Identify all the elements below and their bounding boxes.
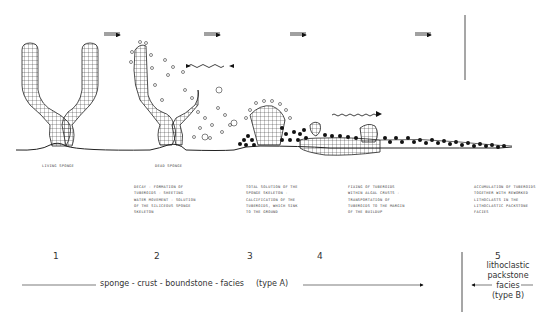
progression-arrows [104, 33, 431, 35]
stage-4-number: 4 [317, 251, 323, 261]
stage-4-description: FIXING OF TUBEROIDS WITHIN ALGAL CRUSTS … [348, 184, 405, 215]
stage-1-number: 1 [53, 251, 59, 261]
stage-2-label: DEAD SPONGE [155, 163, 182, 169]
dead-sponge-shape [130, 41, 238, 146]
type-b-line-4: (type B) [470, 291, 546, 301]
facies-type-b-label: lithoclastic packstone facies (type B) [470, 261, 546, 301]
transport-arrow [332, 114, 376, 116]
stage-3-description: TOTAL SOLUTION OF THE SPONGE SKELETON - … [246, 184, 298, 215]
living-sponge-shape [22, 43, 98, 146]
type-b-line-2: packstone [470, 271, 546, 281]
stage-1-label: LIVING SPONGE [42, 163, 74, 169]
facies-type-a-tag: (type A) [256, 279, 288, 288]
stage-3-number: 3 [247, 251, 253, 261]
stage-5-number: 5 [495, 251, 501, 261]
stage-2-number: 2 [154, 251, 160, 261]
algal-crust-buildup [298, 122, 512, 155]
type-b-line-3: facies [470, 281, 546, 291]
calcified-sponge-shape [238, 100, 300, 148]
type-b-line-1: lithoclastic [470, 261, 546, 271]
stage-5-description: ACCUMULATION OF TUBEROIDS TOGETHER WITH … [474, 184, 536, 215]
water-movement-arrow [188, 65, 224, 68]
facies-type-a-label: sponge - crust - boundstone - facies [100, 279, 244, 288]
stage-2-description: DECAY - FORMATION OF TUBEROIDS - SHEETIN… [134, 184, 196, 215]
